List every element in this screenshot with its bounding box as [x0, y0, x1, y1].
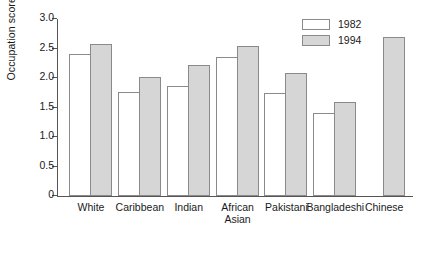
bar-1982	[167, 86, 189, 196]
bar-1994	[237, 46, 259, 196]
bar-1994	[334, 102, 356, 196]
x-axis-label: Chinese	[344, 201, 422, 213]
bar-1982	[216, 57, 238, 196]
legend-item: 1982	[302, 17, 361, 31]
y-axis-tick: 1.5	[57, 107, 58, 108]
bar-1982	[69, 54, 91, 196]
legend-swatch-icon	[302, 35, 330, 46]
bar-chart: Occupation score (max.=4) 00.51.01.52.02…	[0, 0, 422, 256]
y-axis-tick: 1.0	[57, 136, 58, 137]
y-axis-line	[57, 19, 58, 197]
y-axis-tick: 2.5	[57, 48, 58, 49]
bar-1994	[139, 77, 161, 196]
y-axis-tick-label: 0.5	[24, 159, 54, 172]
bar-1994	[188, 65, 210, 196]
legend: 19821994	[302, 17, 361, 49]
x-axis-line	[57, 196, 413, 197]
y-axis-tick-label: 1.5	[24, 100, 54, 113]
bar-1982	[313, 113, 335, 196]
y-axis-title-label: Occupation score (max.=4)	[4, 0, 18, 116]
y-axis-tick: 2.0	[57, 77, 58, 78]
y-axis-tick-label: 0	[24, 188, 54, 201]
y-axis-tick-label: 1.0	[24, 129, 54, 142]
legend-swatch-icon	[302, 19, 330, 30]
y-axis-tick: 0	[57, 195, 58, 196]
y-axis-tick-label: 2.0	[24, 70, 54, 83]
legend-item: 1994	[302, 33, 361, 47]
y-axis-tick: 3.0	[57, 18, 58, 19]
legend-label: 1982	[338, 18, 361, 30]
bar-1994	[383, 37, 405, 196]
y-axis-title: Occupation score (max.=4)	[2, 0, 16, 28]
bar-1982	[264, 93, 286, 196]
bar-1982	[118, 92, 140, 196]
y-axis-tick-label: 2.5	[24, 41, 54, 54]
y-axis-tick-label: 3.0	[24, 11, 54, 24]
bar-1994	[285, 73, 307, 196]
legend-label: 1994	[338, 34, 361, 46]
bar-1994	[90, 44, 112, 196]
y-axis-tick: 0.5	[57, 166, 58, 167]
